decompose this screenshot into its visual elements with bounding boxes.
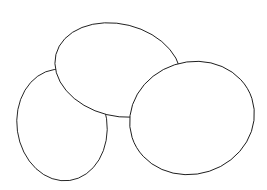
illustration: [0, 0, 267, 190]
ellipses-drawing: [0, 0, 267, 190]
